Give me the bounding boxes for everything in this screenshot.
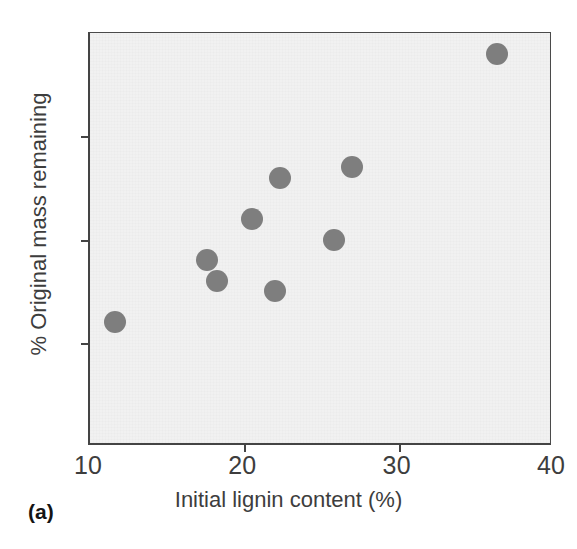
- data-point: [206, 270, 228, 292]
- data-point: [264, 280, 286, 302]
- y-axis-title-container: % Original mass remaining: [23, 18, 55, 431]
- y-axis-tick: [81, 240, 90, 242]
- scatter-plot-figure: 3040506070 10203040 Initial lignin conte…: [0, 0, 577, 549]
- data-point: [323, 229, 345, 251]
- y-axis-tick: [81, 343, 90, 345]
- data-point: [341, 156, 363, 178]
- plot-texture: [90, 33, 550, 443]
- data-point: [486, 43, 508, 65]
- y-axis-title: % Original mass remaining: [26, 93, 52, 356]
- x-axis-tick-label: 40: [537, 451, 565, 480]
- data-point: [241, 208, 263, 230]
- x-axis-tick-label: 30: [383, 451, 411, 480]
- data-point: [196, 249, 218, 271]
- data-point: [104, 311, 126, 333]
- x-axis-title: Initial lignin content (%): [0, 487, 577, 513]
- data-point: [269, 167, 291, 189]
- x-axis-tick-label: 20: [228, 451, 256, 480]
- panel-caption: (a): [28, 500, 54, 524]
- plot-area: [88, 32, 551, 445]
- y-axis-tick: [81, 136, 90, 138]
- x-axis-tick-label: 10: [74, 451, 102, 480]
